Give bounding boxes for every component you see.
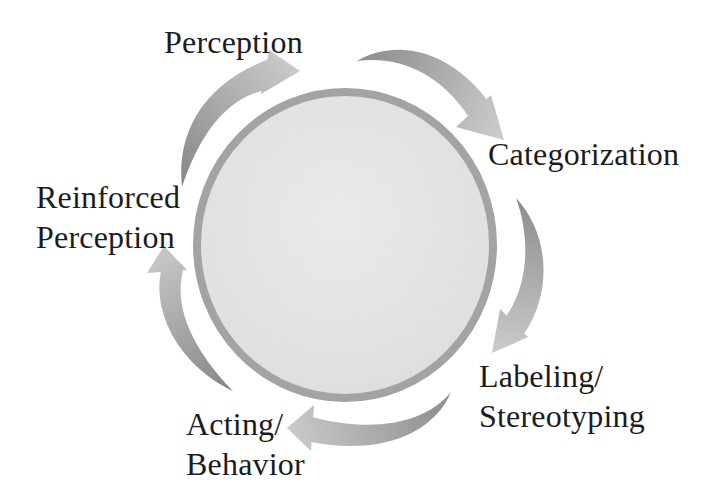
stage-label-line: Behavior [186,444,305,484]
stage-label-line: Categorization [488,134,679,174]
cycle-diagram: Perception Categorization Labeling/ Ster… [0,0,717,501]
stage-label-line: Perception [164,22,303,62]
arrow-categorization-to-labeling [492,198,544,353]
stage-label-acting-behavior: Acting/ Behavior [186,404,305,484]
stage-label-line: Perception [36,217,180,257]
stage-label-categorization: Categorization [488,134,679,174]
stage-label-line: Acting/ [186,404,305,444]
stage-label-line: Stereotyping [479,396,645,436]
arrow-labeling-to-acting [287,392,451,451]
stage-label-line: Reinforced [36,177,180,217]
stage-label-labeling-stereotyping: Labeling/ Stereotyping [479,356,645,436]
stage-label-perception: Perception [164,22,303,62]
stage-label-line: Labeling/ [479,356,645,396]
cycle-circle [197,92,493,398]
stage-label-reinforced-perception: Reinforced Perception [36,177,180,257]
